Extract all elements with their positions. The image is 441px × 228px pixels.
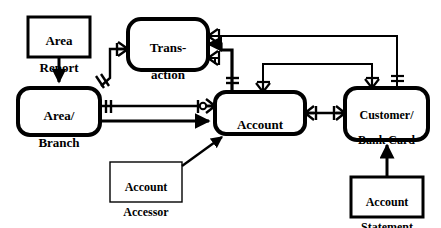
entity-shape-account bbox=[215, 92, 305, 134]
relationship-account-top-crowsfoot-to-transaction bbox=[256, 64, 345, 92]
relationship-account-to-customer bbox=[305, 106, 345, 120]
entity-shape-transaction bbox=[128, 19, 208, 70]
relationship-area-branch-to-transaction bbox=[96, 42, 128, 88]
relationship-area-branch-to-account-upper bbox=[100, 99, 215, 113]
entity-shape-customer-bank-card bbox=[345, 88, 428, 140]
diagram-canvas: Area Report Trans- action Area/ Branch A… bbox=[0, 0, 441, 228]
entity-shape-area-report bbox=[28, 17, 90, 57]
relationship-customer-crowsfoot-to-transaction-lower bbox=[263, 64, 379, 88]
entity-shape-area-branch bbox=[18, 88, 100, 135]
relationship-account-to-transaction bbox=[208, 44, 239, 92]
entity-shape-account-statement bbox=[351, 177, 423, 217]
diagram-svg bbox=[0, 0, 441, 228]
relationship-account-accessor-to-account bbox=[182, 137, 222, 166]
entity-shape-account-accessor bbox=[110, 162, 182, 202]
